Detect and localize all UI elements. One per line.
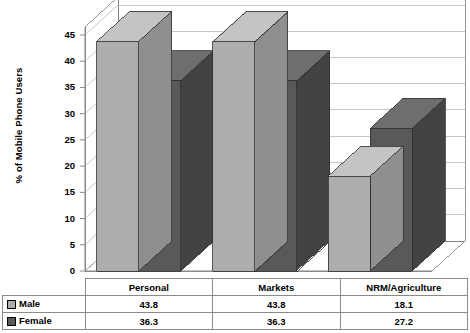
chart-figure: % of Mobile Phone Users 0510152025303540… [0, 0, 470, 333]
table-cell-female-0: 36.3 [85, 313, 213, 330]
table-header-markets: Markets [213, 279, 341, 296]
table-cell-male-2: 18.1 [340, 296, 468, 313]
bar-personal-male-side [139, 11, 172, 271]
table-cell-female-2: 27.2 [340, 313, 468, 330]
legend-label-male: Male [19, 298, 40, 309]
table-header-personal: Personal [85, 279, 213, 296]
bar-nrm-agriculture-male-front [328, 176, 370, 271]
table-row: PersonalMarketsNRM/Agriculture [3, 279, 468, 296]
table-cell-male-1: 43.8 [213, 296, 341, 313]
bar-markets-male-side [255, 11, 288, 271]
table-cell-female-1: 36.3 [213, 313, 341, 330]
table-corner-blank [3, 279, 86, 296]
legend-item-male: Male [3, 296, 86, 313]
legend-item-female: Female [3, 313, 86, 330]
table-row: Female36.336.327.2 [3, 313, 468, 330]
chart-canvas [0, 0, 470, 280]
table-header-nrm-agriculture: NRM/Agriculture [340, 279, 468, 296]
bar-markets-female-side [297, 51, 330, 271]
bar-markets-male-front [213, 41, 255, 271]
chart-data-table: PersonalMarketsNRM/AgricultureMale43.843… [2, 278, 468, 330]
legend-label-female: Female [19, 315, 52, 326]
bar-personal-male-front [97, 41, 139, 271]
legend-swatch-male [7, 300, 16, 309]
table-cell-male-0: 43.8 [85, 296, 213, 313]
table-row: Male43.843.818.1 [3, 296, 468, 313]
bar-personal-female-side [181, 51, 214, 271]
legend-swatch-female [7, 317, 16, 326]
plot-area: % of Mobile Phone Users 0510152025303540… [0, 0, 470, 280]
